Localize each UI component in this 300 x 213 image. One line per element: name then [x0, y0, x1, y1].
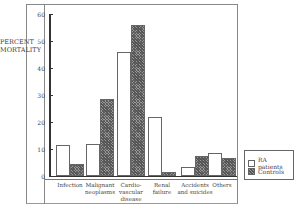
- bar-controls: [100, 99, 114, 176]
- y-tick-label: 0: [30, 173, 45, 180]
- category-label: Others: [204, 182, 240, 189]
- bar-controls: [222, 158, 236, 176]
- bar-ra: [117, 52, 131, 176]
- bar-ra: [56, 145, 70, 176]
- y-tick-label: 10: [30, 146, 45, 153]
- category-label-line: disease: [113, 196, 149, 203]
- legend-label-controls: Controls: [258, 168, 284, 175]
- y-tick: [49, 14, 53, 15]
- y-tick: [49, 41, 53, 42]
- legend: RA patients Controls: [244, 150, 294, 180]
- bar-ra: [148, 117, 162, 176]
- category-strip-divider: [45, 179, 238, 180]
- y-tick-label: 40: [30, 65, 45, 72]
- bar-controls: [70, 164, 84, 176]
- bar-controls: [162, 172, 176, 176]
- bar-controls: [131, 25, 145, 176]
- bar-ra: [86, 144, 100, 176]
- y-tick: [49, 122, 53, 123]
- y-tick-label: 20: [30, 119, 45, 126]
- y-axis-label-line2: MORTALITY: [0, 46, 41, 54]
- legend-swatch-ra: [248, 160, 255, 167]
- y-tick-label: 30: [30, 92, 45, 99]
- bar-controls: [195, 156, 209, 176]
- y-tick: [49, 176, 53, 177]
- y-tick: [49, 68, 53, 69]
- legend-item-controls: Controls: [248, 168, 284, 175]
- category-label-line: failure: [144, 189, 180, 196]
- category-label: Renalfailure: [144, 182, 180, 196]
- category-label-line: and suicides: [177, 189, 213, 196]
- y-tick: [49, 95, 53, 96]
- y-tick: [49, 149, 53, 150]
- bar-ra: [208, 153, 222, 176]
- category-label-line: Others: [204, 182, 240, 189]
- y-tick-label: 60: [30, 11, 45, 18]
- y-tick-label: 50: [30, 38, 45, 45]
- legend-swatch-controls: [248, 168, 255, 175]
- bar-ra: [181, 167, 195, 176]
- x-axis-baseline: [49, 176, 237, 177]
- category-label-line: Renal: [144, 182, 180, 189]
